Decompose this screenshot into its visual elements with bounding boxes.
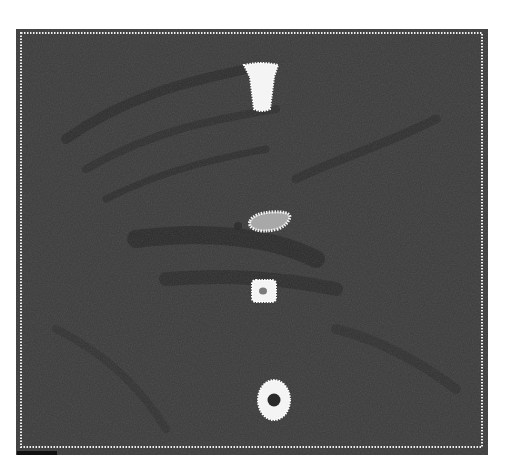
painting-svg <box>16 29 488 455</box>
frame-shadow-edge <box>17 451 57 455</box>
painting-canvas <box>16 29 488 455</box>
artwork-photo <box>0 0 514 476</box>
motif-ring <box>258 380 290 420</box>
motif-square <box>252 280 276 302</box>
